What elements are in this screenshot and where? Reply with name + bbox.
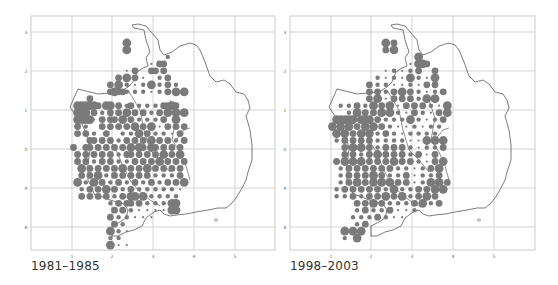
- abundance-dot: [375, 131, 379, 135]
- abundance-dot: [84, 124, 88, 128]
- abundance-dot: [180, 178, 189, 187]
- abundance-dot: [398, 192, 407, 201]
- abundance-dot: [423, 186, 430, 193]
- abundance-dot: [132, 158, 139, 165]
- abundance-dot: [78, 172, 85, 179]
- abundance-dot: [174, 138, 178, 142]
- abundance-dot: [160, 61, 167, 68]
- abundance-dot: [115, 74, 122, 81]
- abundance-dot: [350, 130, 357, 137]
- abundance-dot: [164, 74, 171, 81]
- abundance-dot: [127, 116, 134, 123]
- abundance-dot: [77, 164, 86, 173]
- abundance-dot: [140, 109, 147, 116]
- abundance-dot: [160, 116, 167, 123]
- abundance-dot: [403, 102, 410, 109]
- abundance-dot: [431, 73, 440, 82]
- abundance-dot: [115, 123, 122, 130]
- abundance-dot: [87, 193, 94, 200]
- abundance-dot: [150, 91, 152, 93]
- abundance-dot: [157, 180, 161, 184]
- abundance-dot: [408, 194, 412, 198]
- abundance-dot: [413, 174, 415, 176]
- abundance-dot: [401, 216, 403, 218]
- abundance-dot: [391, 193, 398, 200]
- abundance-dot: [341, 151, 348, 158]
- abundance-dot: [155, 157, 164, 166]
- abundance-dot: [87, 172, 94, 179]
- abundance-dot: [396, 166, 400, 170]
- abundance-dot: [154, 209, 156, 211]
- abundance-dot: [400, 187, 404, 191]
- abundance-dot: [99, 179, 106, 186]
- abundance-dot: [391, 95, 398, 102]
- abundance-dot: [170, 187, 174, 191]
- abundance-dot: [416, 76, 420, 80]
- abundance-dot: [111, 207, 118, 214]
- abundance-dot: [432, 151, 439, 158]
- abundance-dot: [401, 84, 403, 86]
- abundance-dot: [373, 150, 382, 159]
- abundance-dot: [107, 151, 114, 158]
- abundance-dot: [393, 216, 395, 218]
- abundance-dot: [385, 70, 387, 72]
- abundance-dot: [392, 76, 396, 80]
- abundance-dot: [382, 151, 389, 158]
- abundance-dot: [153, 104, 157, 108]
- abundance-dot: [366, 88, 373, 95]
- abundance-dot: [362, 109, 369, 116]
- y-tick-label: 2: [25, 69, 28, 74]
- abundance-dot: [115, 179, 122, 186]
- abundance-dot: [433, 145, 437, 149]
- abundance-dot: [125, 83, 129, 87]
- abundance-dot: [350, 151, 357, 158]
- abundance-dot: [374, 88, 381, 95]
- abundance-dot: [82, 130, 89, 137]
- abundance-dot: [408, 131, 412, 135]
- abundance-dot: [95, 165, 102, 172]
- abundance-dot: [378, 102, 385, 109]
- abundance-dot: [149, 194, 153, 198]
- abundance-dot: [111, 116, 118, 123]
- abundance-dot: [126, 70, 128, 72]
- abundance-dot: [107, 109, 114, 116]
- abundance-dot: [100, 111, 104, 115]
- abundance-dot: [362, 172, 369, 179]
- abundance-dot: [181, 158, 188, 165]
- abundance-dot: [432, 67, 439, 74]
- abundance-dot: [126, 244, 128, 246]
- abundance-dot: [378, 200, 385, 207]
- abundance-dot: [99, 137, 106, 144]
- abundance-dot: [422, 136, 431, 145]
- abundance-dot: [111, 186, 118, 193]
- abundance-dot: [95, 144, 102, 151]
- abundance-dot: [111, 221, 118, 228]
- abundance-dot: [375, 76, 379, 80]
- abundance-dot: [148, 158, 155, 165]
- abundance-dot: [370, 165, 377, 172]
- abundance-dot: [415, 67, 422, 74]
- abundance-dot: [176, 150, 185, 159]
- abundance-dot: [426, 77, 428, 79]
- abundance-dot: [95, 193, 102, 200]
- abundance-dot: [354, 102, 361, 109]
- abundance-dot: [132, 109, 139, 116]
- abundance-dot: [99, 158, 106, 165]
- abundance-dot: [78, 193, 85, 200]
- abundance-dot: [429, 104, 433, 108]
- abundance-dot: [418, 199, 427, 208]
- y-tick-label: 0: [25, 147, 28, 152]
- abundance-dot: [374, 214, 381, 221]
- abundance-dot: [408, 69, 412, 73]
- abundance-dot: [403, 172, 410, 179]
- abundance-dot: [412, 208, 416, 212]
- abundance-dot: [177, 172, 184, 179]
- abundance-dot: [93, 119, 95, 121]
- abundance-dot: [153, 131, 157, 135]
- x-tick-label: 3: [152, 254, 155, 259]
- abundance-dot: [416, 90, 420, 94]
- abundance-dot: [152, 67, 159, 74]
- abundance-dot: [374, 116, 381, 123]
- abundance-dot: [399, 144, 406, 151]
- abundance-dot: [359, 215, 363, 219]
